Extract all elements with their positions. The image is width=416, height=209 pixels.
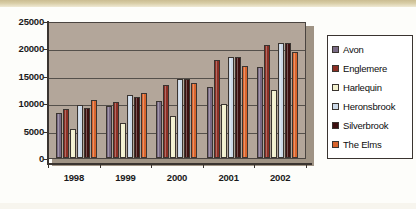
bar-group-2001 (207, 23, 248, 158)
legend-item-label: Harlequin (343, 82, 382, 93)
y-axis-tick-label: 25000 (0, 16, 44, 27)
chart-screenshot: 2500020000150001000050000 19981999200020… (0, 0, 416, 209)
legend-item-label: Heronsbrook (343, 101, 395, 112)
x-axis-tick (306, 163, 307, 168)
x-axis-line (47, 163, 312, 165)
legend-swatch-icon (332, 65, 339, 72)
bar-the-elms-2000 (191, 83, 197, 158)
bar-heronsbrook-1999 (127, 95, 133, 158)
bar-englemere-2002 (264, 45, 270, 158)
bar-avon-1998 (56, 113, 62, 158)
bar-harlequin-1998 (70, 129, 76, 158)
x-axis-tick (48, 163, 49, 168)
bar-silverbrook-1999 (134, 97, 140, 158)
y-axis-line (47, 21, 49, 164)
legend-item-the-elms[interactable]: The Elms (332, 135, 409, 154)
bar-harlequin-2002 (271, 90, 277, 158)
x-axis-tick (254, 163, 255, 168)
y-axis-tick (43, 49, 48, 50)
x-axis-tick-label: 2001 (206, 172, 252, 183)
bar-silverbrook-2001 (235, 57, 241, 158)
bar-englemere-1998 (63, 109, 69, 158)
legend-swatch-icon (332, 84, 339, 91)
y-axis-tick-label: 0 (0, 153, 44, 164)
legend-item-label: Avon (343, 44, 364, 55)
legend-swatch-icon (332, 122, 339, 129)
bar-heronsbrook-2002 (278, 43, 284, 158)
plot-frame (48, 22, 310, 162)
legend-item-heronsbrook[interactable]: Heronsbrook (332, 97, 409, 116)
bar-group-2002 (257, 23, 298, 158)
legend-item-avon[interactable]: Avon (332, 40, 409, 59)
x-axis-tick-label: 1998 (51, 172, 97, 183)
bar-the-elms-1999 (141, 93, 147, 158)
x-axis-tick (151, 163, 152, 168)
bar-harlequin-2001 (221, 104, 227, 158)
x-axis-tick (203, 163, 204, 168)
bar-silverbrook-2000 (184, 79, 190, 158)
y-axis-tick (43, 77, 48, 78)
y-axis-tick-label: 20000 (0, 43, 44, 54)
y-axis-tick-label: 15000 (0, 71, 44, 82)
legend-swatch-icon (332, 103, 339, 110)
bar-avon-2001 (207, 87, 213, 158)
bar-heronsbrook-2001 (228, 57, 234, 158)
bar-the-elms-2002 (292, 52, 298, 158)
y-axis-labels: 2500020000150001000050000 (0, 0, 44, 209)
bar-the-elms-1998 (91, 100, 97, 158)
x-axis-tick-label: 2002 (257, 172, 303, 183)
bar-harlequin-1999 (120, 123, 126, 158)
bar-group-2000 (156, 23, 197, 158)
bar-group-1998 (56, 23, 97, 158)
bar-harlequin-2000 (170, 116, 176, 158)
bar-silverbrook-1998 (84, 108, 90, 158)
y-axis-tick (43, 132, 48, 133)
legend-item-label: Silverbrook (343, 120, 388, 131)
bar-heronsbrook-2000 (177, 79, 183, 158)
legend-item-silverbrook[interactable]: Silverbrook (332, 116, 409, 135)
bar-avon-2002 (257, 67, 263, 158)
scan-edge-top (0, 0, 416, 7)
bar-heronsbrook-1998 (77, 105, 83, 158)
y-axis-tick (43, 22, 48, 23)
bar-englemere-2001 (214, 60, 220, 158)
bar-silverbrook-2002 (285, 43, 291, 158)
bar-avon-2000 (156, 101, 162, 158)
legend-swatch-icon (332, 141, 339, 148)
legend-item-englemere[interactable]: Englemere (332, 59, 409, 78)
legend-swatch-icon (332, 46, 339, 53)
bar-avon-1999 (106, 106, 112, 158)
scan-edge-bottom (0, 203, 416, 209)
bar-groups (49, 23, 305, 158)
y-axis-tick-label: 10000 (0, 98, 44, 109)
chart-legend: AvonEnglemereHarlequinHeronsbrookSilverb… (327, 35, 413, 159)
y-axis-tick (43, 104, 48, 105)
bar-englemere-2000 (163, 85, 169, 158)
legend-item-label: Englemere (343, 63, 387, 74)
y-axis-tick (43, 159, 48, 160)
bar-englemere-1999 (113, 102, 119, 158)
x-axis-tick-label: 2000 (154, 172, 200, 183)
y-axis-tick-label: 5000 (0, 126, 44, 137)
x-axis-tick (100, 163, 101, 168)
bar-the-elms-2001 (242, 66, 248, 158)
legend-item-label: The Elms (343, 139, 382, 150)
legend-item-harlequin[interactable]: Harlequin (332, 78, 409, 97)
plot-area (48, 22, 306, 159)
bar-group-1999 (106, 23, 147, 158)
x-axis-tick-label: 1999 (102, 172, 148, 183)
